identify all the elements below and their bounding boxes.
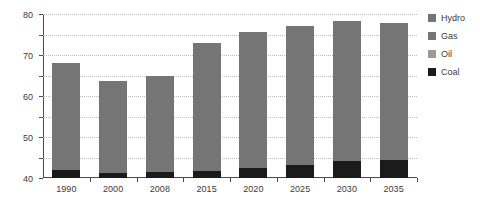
x-tick-label: 2000 — [93, 184, 133, 194]
y-tick-mark: 0 — [39, 178, 43, 179]
x-tick-label: 2020 — [233, 184, 273, 194]
legend-item-oil[interactable]: Oil — [428, 45, 478, 63]
bar-segment-hydro[interactable] — [146, 76, 174, 86]
x-tick-mark — [324, 178, 325, 182]
bar-segment-coal[interactable] — [52, 170, 80, 178]
bar-stack[interactable] — [239, 14, 267, 178]
y-tick-mark: 10 — [39, 158, 43, 159]
y-tick-label: 50 — [23, 133, 33, 143]
y-tick-label: 60 — [23, 92, 33, 102]
legend-label: Coal — [441, 67, 460, 77]
x-tick-label: 1990 — [46, 184, 86, 194]
y-tick-mark: 80 — [39, 14, 43, 15]
bar-segment-coal[interactable] — [286, 165, 314, 178]
bar-segment-coal[interactable] — [333, 161, 361, 178]
bar-segment-coal[interactable] — [99, 173, 127, 178]
bar-stack[interactable] — [193, 14, 221, 178]
bar-stack[interactable] — [99, 14, 127, 178]
bar-segment-oil[interactable] — [380, 159, 408, 160]
bar-segment-hydro[interactable] — [239, 32, 267, 42]
y-tick-mark: 30 — [39, 117, 43, 118]
legend-swatch-icon — [428, 32, 436, 40]
legend-swatch-icon — [428, 68, 436, 76]
x-tick-label: 2008 — [140, 184, 180, 194]
bar-segment-coal[interactable] — [239, 168, 267, 178]
bar-segment-hydro[interactable] — [380, 23, 408, 33]
legend-label: Hydro — [441, 13, 465, 23]
x-tick-label: 2030 — [327, 184, 367, 194]
y-tick-mark: 70 — [39, 35, 43, 36]
bar-segment-coal[interactable] — [380, 160, 408, 178]
x-tick-label: 2025 — [280, 184, 320, 194]
bar-segment-hydro[interactable] — [99, 81, 127, 91]
x-tick-label: 2015 — [187, 184, 227, 194]
chart-legend: HydroGasOilCoal — [428, 9, 478, 81]
bar-segment-hydro[interactable] — [333, 21, 361, 31]
bar-segment-hydro[interactable] — [52, 63, 80, 73]
bar-segment-oil[interactable] — [333, 160, 361, 161]
x-tick-mark — [277, 178, 278, 182]
bar-segment-gas[interactable] — [333, 31, 361, 159]
y-tick-mark: 50 — [39, 76, 43, 77]
bar-segment-oil[interactable] — [99, 172, 127, 173]
y-tick-label: 80 — [23, 10, 33, 20]
legend-item-coal[interactable]: Coal — [428, 63, 478, 81]
x-tick-mark — [230, 178, 231, 182]
legend-label: Oil — [441, 49, 452, 59]
bar-segment-oil[interactable] — [239, 167, 267, 168]
legend-swatch-icon — [428, 50, 436, 58]
x-tick-mark — [370, 178, 371, 182]
bar-segment-gas[interactable] — [99, 91, 127, 172]
bar-segment-coal[interactable] — [193, 171, 221, 178]
x-tick-mark — [90, 178, 91, 182]
y-tick-mark: 60 — [39, 55, 43, 56]
bar-segment-oil[interactable] — [286, 164, 314, 165]
bar-segment-oil[interactable] — [52, 169, 80, 170]
bar-segment-gas[interactable] — [286, 37, 314, 164]
x-tick-mark — [183, 178, 184, 182]
bar-segment-hydro[interactable] — [286, 26, 314, 36]
y-tick-label: 70 — [23, 51, 33, 61]
bar-segment-gas[interactable] — [193, 53, 221, 170]
bar-stack[interactable] — [380, 14, 408, 178]
bar-segment-hydro[interactable] — [193, 43, 221, 53]
y-tick-mark: 20 — [39, 137, 43, 138]
legend-item-gas[interactable]: Gas — [428, 27, 478, 45]
x-tick-mark — [137, 178, 138, 182]
bar-segment-gas[interactable] — [380, 33, 408, 158]
plot-area: 01020304050607080 — [43, 14, 417, 178]
legend-label: Gas — [441, 31, 458, 41]
bar-segment-oil[interactable] — [146, 171, 174, 172]
bar-segment-gas[interactable] — [146, 86, 174, 171]
legend-item-hydro[interactable]: Hydro — [428, 9, 478, 27]
bar-segment-oil[interactable] — [193, 170, 221, 171]
legend-swatch-icon — [428, 14, 436, 22]
y-tick-label: 40 — [23, 174, 33, 184]
bar-stack[interactable] — [146, 14, 174, 178]
x-tick-mark — [417, 178, 418, 182]
bar-stack[interactable] — [333, 14, 361, 178]
stacked-bar-chart: TWh 01020304050607080 199020002008201520… — [0, 0, 480, 212]
bar-segment-coal[interactable] — [146, 172, 174, 178]
y-tick-mark: 40 — [39, 96, 43, 97]
bar-stack[interactable] — [286, 14, 314, 178]
bar-stack[interactable] — [52, 14, 80, 178]
bar-segment-gas[interactable] — [239, 43, 267, 167]
bar-segment-gas[interactable] — [52, 73, 80, 168]
x-tick-label: 2035 — [374, 184, 414, 194]
